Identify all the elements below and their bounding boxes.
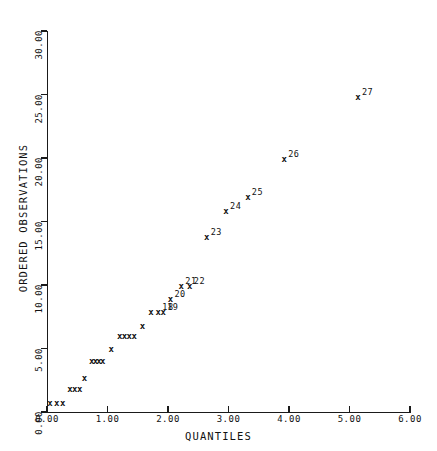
- data-point-marker: x: [131, 331, 136, 340]
- x-tick: [228, 406, 229, 412]
- data-point-marker: x: [281, 155, 286, 164]
- y-tick-label: 10.00: [34, 284, 44, 314]
- data-point-marker: x: [204, 232, 209, 241]
- x-tick-label: 5.00: [338, 414, 362, 424]
- data-point-label: 24: [230, 202, 241, 211]
- x-tick-label: 2.00: [156, 414, 180, 424]
- x-tick-label: 1.00: [96, 414, 120, 424]
- data-point-marker: x: [179, 282, 184, 291]
- data-point-marker: x: [187, 282, 192, 291]
- y-axis-line: [47, 31, 48, 413]
- x-tick: [167, 406, 168, 412]
- data-point-marker: x: [47, 399, 52, 408]
- y-tick-label: 20.00: [34, 157, 44, 187]
- y-tick-label: 30.00: [34, 30, 44, 60]
- y-tick-label: 5.00: [34, 348, 44, 372]
- data-point-marker: x: [160, 307, 165, 316]
- data-point-label: 26: [288, 150, 299, 159]
- data-point-marker: x: [82, 373, 87, 382]
- data-point-marker: x: [54, 399, 59, 408]
- x-tick: [107, 406, 108, 412]
- x-tick: [349, 406, 350, 412]
- x-tick-label: 0.00: [35, 414, 59, 424]
- data-point-label: 20: [174, 290, 185, 299]
- y-tick-label: 25.00: [34, 94, 44, 124]
- x-tick: [288, 406, 289, 412]
- y-axis-title: ORDERED OBSERVATIONS: [17, 118, 29, 318]
- data-point-label: 19: [167, 302, 178, 311]
- data-point-marker: x: [108, 344, 113, 353]
- data-point-marker: x: [148, 307, 153, 316]
- data-point-marker: x: [140, 321, 145, 330]
- data-point-marker: x: [60, 399, 65, 408]
- data-point-label: 27: [362, 88, 373, 97]
- data-point-marker: x: [245, 193, 250, 202]
- x-tick-label: 3.00: [217, 414, 241, 424]
- y-tick-label: 15.00: [34, 221, 44, 251]
- data-point-marker: x: [223, 207, 228, 216]
- data-point-label: 23: [211, 227, 222, 236]
- data-point-label: 22: [194, 277, 205, 286]
- x-tick-label: 6.00: [398, 414, 422, 424]
- x-tick: [409, 406, 410, 412]
- x-axis-title: QUANTILES: [0, 430, 437, 442]
- data-point-marker: x: [77, 385, 82, 394]
- data-point-marker: x: [100, 357, 105, 366]
- qq-plot: 0.005.0010.0015.0020.0025.0030.00 0.001.…: [0, 0, 437, 451]
- x-tick-label: 4.00: [277, 414, 301, 424]
- data-point-label: 25: [252, 188, 263, 197]
- data-point-marker: x: [168, 294, 173, 303]
- data-point-marker: x: [355, 93, 360, 102]
